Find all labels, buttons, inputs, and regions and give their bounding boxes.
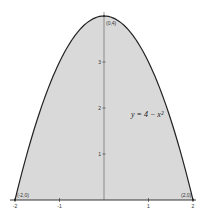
point-label: (2,0) — [181, 192, 192, 198]
y-tick-label: 2 — [98, 105, 101, 111]
point-label: (0,4) — [106, 20, 117, 26]
point-marker — [103, 15, 105, 17]
point-label: (-2,0) — [17, 192, 29, 198]
x-tick-label: -2 — [13, 203, 18, 209]
x-tick-label: 2 — [192, 203, 195, 209]
y-tick-label: 1 — [98, 151, 101, 157]
x-tick-label: -1 — [57, 203, 62, 209]
parabola-plot: -2-112 123 (0,4)(-2,0)(2,0) y = 4 − x² — [0, 0, 204, 220]
point-marker — [14, 199, 16, 201]
equation-label: y = 4 − x² — [130, 110, 164, 119]
y-tick-label: 3 — [98, 59, 101, 65]
point-marker — [192, 199, 194, 201]
x-tick-label: 1 — [147, 203, 150, 209]
